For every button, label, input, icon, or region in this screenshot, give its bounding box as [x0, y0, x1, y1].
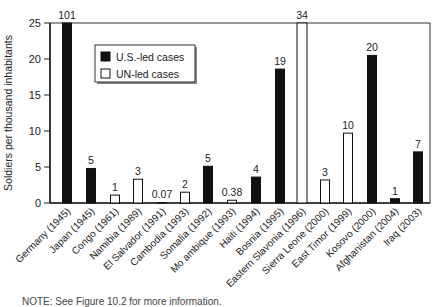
- bar-value-label: 20: [366, 41, 378, 53]
- y-tick-label: 10: [29, 125, 41, 137]
- bar-value-label: 2: [182, 178, 188, 190]
- y-tick-label: 20: [29, 53, 41, 65]
- bar-value-label: 10: [342, 119, 354, 131]
- legend-swatch: [101, 69, 110, 78]
- bar-value-label: 19: [274, 55, 286, 67]
- bar: [391, 199, 400, 203]
- bar: [87, 168, 96, 203]
- bar: [111, 195, 120, 203]
- bar-value-label: 3: [135, 165, 141, 177]
- y-tick-label: 5: [35, 161, 41, 173]
- bar-value-label: 5: [88, 154, 94, 166]
- bar: [181, 192, 190, 203]
- bar-value-label: 0.07: [152, 188, 173, 200]
- bar-value-label: 3: [322, 166, 328, 178]
- bar-value-label: 1: [112, 181, 118, 193]
- bar: [344, 133, 353, 203]
- chart-note: NOTE: See Figure 10.2 for more informati…: [22, 296, 222, 307]
- y-tick-label: 0: [35, 197, 41, 209]
- bar-value-label: 34: [296, 9, 308, 21]
- bar: [158, 202, 167, 203]
- bar-value-label: 1: [392, 185, 398, 197]
- bar: [204, 166, 213, 203]
- bar: [297, 23, 307, 203]
- legend-label: UN-led cases: [116, 68, 179, 80]
- y-axis-label: Soldiers per thousand inhabitants: [2, 35, 14, 191]
- bar: [228, 200, 237, 203]
- bar-value-label: 0.38: [222, 186, 243, 198]
- bar: [63, 23, 72, 203]
- bar-value-label: 101: [58, 9, 76, 21]
- legend-swatch: [101, 52, 110, 61]
- bar: [252, 177, 261, 203]
- bar: [321, 180, 330, 203]
- bar-value-label: 4: [253, 163, 259, 175]
- bar: [414, 152, 423, 203]
- y-tick-label: 15: [29, 89, 41, 101]
- bar: [368, 55, 377, 203]
- y-tick-label: 25: [29, 17, 41, 29]
- legend-label: U.S.-led cases: [116, 51, 184, 63]
- bar: [276, 69, 285, 203]
- bar-value-label: 5: [205, 152, 211, 164]
- bar: [134, 179, 143, 203]
- bar-value-label: 7: [415, 138, 421, 150]
